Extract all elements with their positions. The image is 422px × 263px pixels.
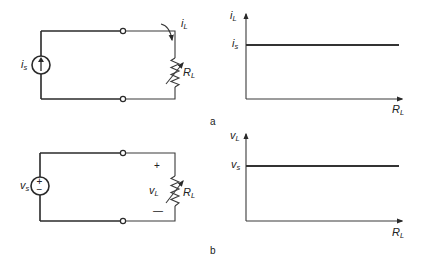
terminal-bottom-b-icon (120, 218, 125, 223)
level-label-a: is (232, 37, 238, 51)
terminal-bottom-a-icon (120, 96, 125, 101)
source-label-b: vs (20, 179, 30, 193)
voltage-source-icon: + − (31, 176, 49, 196)
top-wire-b-right (126, 153, 175, 176)
y-axis-label-a: iL (230, 9, 237, 23)
plus-sign: + (154, 160, 160, 171)
load-label-b: RL (183, 186, 195, 200)
current-label-a: iL (181, 17, 188, 31)
source-label-a: is (21, 58, 27, 72)
bottom-wire-a-right (126, 87, 175, 99)
terminal-top-b-icon (120, 150, 125, 155)
current-source-icon (32, 56, 50, 74)
x-axis-label-a: RL (392, 103, 404, 117)
bottom-wire-b-right (126, 206, 175, 221)
minus-sign: — (153, 205, 163, 216)
y-axis-label-b: vL (230, 129, 240, 143)
level-label-b: vs (231, 158, 241, 172)
top-wire-a-right (126, 31, 175, 58)
voltage-label-b: vL (149, 184, 159, 198)
graph-a: iL is RL (230, 9, 404, 117)
load-label-a: RL (183, 66, 195, 80)
caption-b: b (210, 245, 216, 256)
figure-canvas: is RL iL iL is RL a + − vs (0, 0, 422, 263)
svg-text:−: − (37, 184, 43, 195)
x-axis-label-b: RL (392, 226, 404, 240)
caption-a: a (210, 116, 216, 127)
current-direction-arrow-icon (161, 24, 172, 40)
graph-b: vL vs RL (230, 129, 404, 240)
terminal-top-a-icon (120, 28, 125, 33)
circuit-b: + − vs RL + — vL (20, 150, 195, 223)
circuit-a: is RL iL (21, 17, 195, 102)
